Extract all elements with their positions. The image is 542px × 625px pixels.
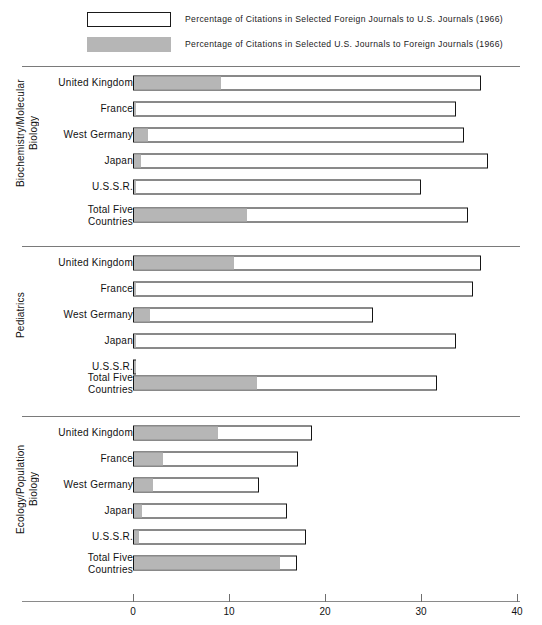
bar-foreign-to-us [133, 128, 464, 143]
chart-bar-row: United Kingdom [0, 422, 542, 444]
chart-bar-row: Japan [0, 150, 542, 172]
legend-item-foreign-to-us: Percentage of Citations in Selected Fore… [0, 8, 542, 30]
bar-foreign-to-us [133, 530, 306, 545]
bar-group [133, 76, 481, 91]
chart-bar-row: U.S.S.R. [0, 176, 542, 198]
bar-row-label: U.S.S.R. [0, 531, 133, 543]
bar-foreign-to-us [133, 452, 298, 467]
x-axis-line [22, 601, 520, 602]
bar-foreign-to-us [133, 478, 259, 493]
bar-us-to-foreign [134, 377, 257, 390]
chart-bar-row: Total Five Countries [0, 372, 542, 394]
bar-row-label: West Germany [0, 479, 133, 491]
x-axis-tick-label: 20 [319, 606, 330, 617]
bar-group [133, 478, 259, 493]
panel-divider-rule [22, 246, 520, 247]
bar-row-label: Total Five Countries [0, 204, 133, 227]
bar-foreign-to-us [133, 426, 312, 441]
bar-group [133, 208, 468, 223]
bar-row-label: Total Five Countries [0, 372, 133, 395]
bar-group [133, 154, 488, 169]
chart-bar-row: France [0, 98, 542, 120]
bar-group [133, 426, 312, 441]
citation-percentage-chart: Percentage of Citations in Selected Fore… [0, 0, 542, 625]
chart-bar-row: Japan [0, 330, 542, 352]
bar-row-label: U.S.S.R. [0, 181, 133, 193]
x-axis-tick-label: 0 [130, 606, 136, 617]
legend-swatch-open-rectangle-icon [87, 12, 171, 27]
chart-bar-row: West Germany [0, 124, 542, 146]
bar-row-label: Total Five Countries [0, 552, 133, 575]
chart-bar-row: West Germany [0, 304, 542, 326]
chart-legend: Percentage of Citations in Selected Fore… [0, 8, 542, 58]
chart-bar-row: France [0, 448, 542, 470]
bar-foreign-to-us [133, 556, 297, 571]
chart-bar-row: U.S.S.R. [0, 526, 542, 548]
bar-row-label: West Germany [0, 129, 133, 141]
bar-us-to-foreign [134, 257, 234, 270]
bar-us-to-foreign [134, 427, 218, 440]
bar-us-to-foreign [134, 309, 150, 322]
x-axis-tick-mark [421, 594, 422, 602]
bar-row-label: Japan [0, 505, 133, 517]
bar-foreign-to-us [133, 180, 421, 195]
bar-foreign-to-us [133, 376, 437, 391]
legend-item-us-to-foreign: Percentage of Citations in Selected U.S.… [0, 33, 542, 55]
bar-row-label: United Kingdom [0, 77, 133, 89]
bar-group [133, 102, 456, 117]
x-axis-tick-mark [517, 594, 518, 602]
bar-group [133, 452, 298, 467]
x-axis-tick-mark [133, 594, 134, 602]
chart-bar-row: West Germany [0, 474, 542, 496]
bar-row-label: Japan [0, 335, 133, 347]
bar-us-to-foreign [134, 77, 221, 90]
bar-us-to-foreign [134, 155, 141, 168]
bar-us-to-foreign [134, 283, 136, 296]
legend-swatch-gray-filled-rectangle-icon [87, 37, 171, 52]
bar-foreign-to-us [133, 154, 488, 169]
chart-bar-row: Total Five Countries [0, 552, 542, 574]
bar-foreign-to-us [133, 208, 468, 223]
bar-group [133, 180, 421, 195]
x-axis-tick-label: 30 [415, 606, 426, 617]
bar-foreign-to-us [133, 334, 456, 349]
bar-group [133, 376, 437, 391]
bar-row-label: France [0, 283, 133, 295]
panel-divider-rule [22, 416, 520, 417]
bar-us-to-foreign [134, 557, 280, 570]
legend-label-us-to-foreign: Percentage of Citations in Selected U.S.… [185, 39, 503, 49]
bar-us-to-foreign [134, 531, 139, 544]
x-axis-tick-label: 40 [511, 606, 522, 617]
bar-us-to-foreign [134, 181, 136, 194]
bar-row-label: United Kingdom [0, 427, 133, 439]
bar-row-label: France [0, 103, 133, 115]
bar-group [133, 504, 287, 519]
bar-foreign-to-us [133, 504, 287, 519]
bar-us-to-foreign [134, 209, 247, 222]
chart-bar-row: Japan [0, 500, 542, 522]
bar-us-to-foreign [134, 129, 148, 142]
x-axis-tick-mark [325, 594, 326, 602]
panel-divider-rule [22, 66, 520, 67]
bar-group [133, 256, 481, 271]
bar-row-label: Japan [0, 155, 133, 167]
legend-label-foreign-to-us: Percentage of Citations in Selected Fore… [185, 14, 503, 24]
x-axis: 010203040 [0, 592, 542, 625]
bar-group [133, 530, 306, 545]
x-axis-tick-mark [229, 594, 230, 602]
bar-us-to-foreign [134, 505, 142, 518]
bar-us-to-foreign [134, 479, 153, 492]
bar-group [133, 556, 297, 571]
bar-row-label: United Kingdom [0, 257, 133, 269]
bar-group [133, 308, 373, 323]
chart-bar-row: United Kingdom [0, 252, 542, 274]
bar-group [133, 282, 473, 297]
x-axis-tick-label: 10 [223, 606, 234, 617]
chart-bar-row: United Kingdom [0, 72, 542, 94]
chart-bar-row: Total Five Countries [0, 204, 542, 226]
bar-row-label: West Germany [0, 309, 133, 321]
bar-group [133, 128, 464, 143]
bar-foreign-to-us [133, 282, 473, 297]
bar-group [133, 334, 456, 349]
bar-foreign-to-us [133, 76, 481, 91]
